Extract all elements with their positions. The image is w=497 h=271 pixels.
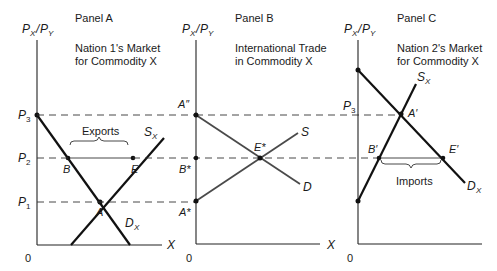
svg-text:S: S xyxy=(417,70,425,84)
panel-c-supply-intercept-dot xyxy=(356,199,361,204)
panel-c-y-axis-label: P X / P Y xyxy=(344,22,376,38)
panel-a-x-label: X xyxy=(166,238,176,252)
svg-text:P: P xyxy=(22,22,30,36)
panel-a-e-label: E xyxy=(131,163,139,175)
panel-c-title-line2: for Commodity X xyxy=(397,55,480,67)
svg-text:3: 3 xyxy=(351,106,356,115)
svg-text:P: P xyxy=(18,195,26,209)
svg-text:Y: Y xyxy=(370,29,376,38)
panel-a-p2-label: P 2 xyxy=(18,151,31,167)
panel-b-point-e-star xyxy=(258,156,263,161)
panel-b-origin: 0 xyxy=(186,252,192,264)
svg-text:P: P xyxy=(344,22,352,36)
panel-c-imports-brace xyxy=(381,160,441,168)
panel-a-sx-label: S X xyxy=(144,125,158,141)
svg-text:P: P xyxy=(40,22,48,36)
panel-c-sx-label: S X xyxy=(417,70,431,86)
svg-text:S: S xyxy=(144,125,152,139)
svg-text:P: P xyxy=(18,108,26,122)
svg-text:D: D xyxy=(125,216,134,230)
panel-a-exports-label: Exports xyxy=(82,125,120,137)
panel-b-b-star-label: B* xyxy=(179,163,191,175)
panel-c-imports-label: Imports xyxy=(396,175,433,187)
panel-c-dx-label: D X xyxy=(467,179,482,195)
svg-text:P: P xyxy=(18,151,26,165)
panel-b-a-star-dot xyxy=(194,199,199,204)
panel-b-supply-curve xyxy=(196,133,298,201)
panel-a-exports-brace xyxy=(70,137,128,145)
panel-b: Panel B International Trade in Commodity… xyxy=(177,12,336,264)
panel-a-title-line2: for Commodity X xyxy=(75,55,158,67)
panel-b-a-star-label: A* xyxy=(178,206,191,218)
panel-b-label: Panel B xyxy=(235,12,274,24)
svg-text:2: 2 xyxy=(26,158,31,167)
panel-c-point-e-prime xyxy=(441,156,446,161)
panel-c-p3-label: P 3 xyxy=(343,99,356,115)
svg-text:P: P xyxy=(343,99,351,113)
svg-text:X: X xyxy=(424,77,431,86)
panel-a-dx-label: D X xyxy=(125,216,140,232)
panel-c-demand-intercept-dot xyxy=(356,68,361,73)
panel-a-a-label: A xyxy=(95,206,103,218)
panel-b-e-star-label: E* xyxy=(254,141,266,153)
panel-b-y-axis-label: P X / P Y xyxy=(182,22,214,38)
panel-c-point-a-prime xyxy=(399,112,404,117)
panel-b-d-label: D xyxy=(303,180,312,194)
panel-a-p3-label: P 3 xyxy=(18,108,31,124)
svg-text:X: X xyxy=(133,223,140,232)
svg-text:X: X xyxy=(351,29,358,38)
panel-b-a-double-prime-label: A″ xyxy=(177,98,190,110)
panel-a-label: Panel A xyxy=(75,12,114,24)
panel-c-b-prime-label: B′ xyxy=(368,143,378,155)
panel-b-b-star-dot xyxy=(194,156,199,161)
panel-c-a-prime-label: A′ xyxy=(407,107,418,119)
panel-b-title-line1: International Trade xyxy=(235,42,327,54)
panel-a-title-line1: Nation 1's Market xyxy=(75,42,160,54)
panel-a-origin: 0 xyxy=(25,252,31,264)
panel-b-a-double-prime-dot xyxy=(194,113,199,118)
panel-c-e-prime-label: E′ xyxy=(449,143,459,155)
panel-b-x-label: X xyxy=(326,238,336,252)
panel-c-title-line1: Nation 2's Market xyxy=(397,42,482,54)
panel-c-point-b-prime xyxy=(377,156,382,161)
svg-text:3: 3 xyxy=(26,115,31,124)
panel-a-y-axis-label: P X / P Y xyxy=(22,22,54,38)
svg-text:Y: Y xyxy=(48,29,54,38)
svg-text:Y: Y xyxy=(208,29,214,38)
svg-text:P: P xyxy=(200,22,208,36)
svg-text:D: D xyxy=(467,179,476,193)
svg-text:X: X xyxy=(151,132,158,141)
panel-a-p1-label: P 1 xyxy=(18,195,31,211)
panel-c-label: Panel C xyxy=(397,12,436,24)
panel-b-demand-curve xyxy=(196,115,300,184)
svg-text:P: P xyxy=(182,22,190,36)
panel-b-title-line2: in Commodity X xyxy=(235,55,313,67)
panel-c-origin: 0 xyxy=(347,252,353,264)
svg-text:1: 1 xyxy=(26,202,31,211)
svg-text:P: P xyxy=(362,22,370,36)
trade-equilibrium-diagram: Panel A Nation 1's Market for Commodity … xyxy=(0,0,497,271)
svg-text:X: X xyxy=(29,29,36,38)
panel-a-b-label: B xyxy=(63,163,70,175)
svg-text:X: X xyxy=(475,186,482,195)
panel-b-s-label: S xyxy=(301,125,309,139)
panel-c: Panel C Nation 2's Market for Commodity … xyxy=(343,12,482,264)
panel-a: Panel A Nation 1's Market for Commodity … xyxy=(18,12,176,264)
svg-text:X: X xyxy=(189,29,196,38)
